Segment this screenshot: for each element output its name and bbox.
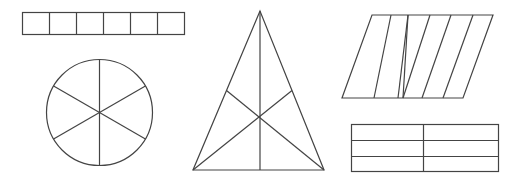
rectangle-strip-shape <box>23 13 185 35</box>
parallelogram-shape <box>342 15 493 98</box>
circle-shape <box>47 60 153 166</box>
triangle-shape <box>193 11 324 170</box>
rectangle-grid-shape <box>352 125 499 172</box>
shapes-diagram <box>0 0 509 180</box>
